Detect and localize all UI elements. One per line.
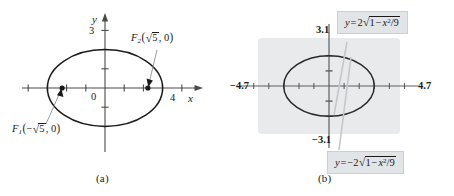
f1-radicand: 5 [38, 123, 45, 135]
eq-lower-radical: √1 − x2/9 [359, 156, 396, 168]
eq-lower-divisor: /9 [387, 157, 395, 168]
window-xmax-label: 4.7 [418, 80, 431, 91]
eq-upper-radicand: 1 − x2/9 [369, 16, 400, 28]
f2-radical: √5 [145, 32, 158, 44]
panel-a: y x 3 0 4 F1(−√5, 0) F2(√5, 0) [0, 0, 227, 196]
equation-callout-lower: y = −2√1 − x2/9 [327, 151, 404, 174]
window-ymax-label: 3.1 [316, 24, 329, 35]
eq-upper-one: 1 [370, 17, 375, 28]
eq-upper-minus: − [376, 17, 382, 28]
eq-upper-divisor: /9 [391, 17, 399, 28]
caption-panel-b: (b) [318, 172, 331, 184]
window-xmin-label: −4.7 [230, 80, 249, 91]
equation-callout-upper: y = 2√1 − x2/9 [337, 11, 408, 34]
f1-radical: √5 [32, 123, 45, 135]
eq-upper-radical: √1 − x2/9 [363, 16, 400, 28]
eq-lower-minus: − [372, 157, 378, 168]
eq-upper-equals: = [351, 17, 357, 28]
f1-rest: , 0 [46, 123, 57, 134]
window-ymin-label: −3.1 [312, 134, 331, 145]
f1-open-paren: ( [22, 121, 26, 135]
y-tick-label-3: 3 [89, 25, 94, 36]
f2-rest: , 0 [159, 32, 170, 43]
caption-panel-a: (a) [96, 172, 109, 184]
f1-close-paren: ) [57, 121, 61, 135]
f1-subscript: 1 [18, 128, 22, 136]
focus-label-f1: F1(−√5, 0) [12, 121, 61, 136]
y-axis-arrow [102, 13, 108, 22]
focus-point-f1 [60, 85, 65, 90]
origin-label: 0 [91, 91, 96, 102]
eq-upper-lhs: y [345, 17, 350, 28]
focus-label-f2: F2(√5, 0) [131, 30, 174, 45]
ellipse-figure: y x 3 0 4 F1(−√5, 0) F2(√5, 0) [0, 0, 454, 196]
f2-close-paren: ) [170, 30, 174, 44]
y-axis-label: y [92, 13, 97, 25]
x-axis-label: x [188, 92, 193, 104]
eq-lower-equals: = [341, 157, 347, 168]
f2-radicand: 5 [152, 32, 159, 44]
eq-lower-radicand: 1 − x2/9 [365, 156, 396, 168]
eq-lower-coefficient: −2 [347, 157, 358, 168]
focus-point-f2 [145, 85, 150, 90]
x-axis-arrow [195, 85, 204, 91]
f2-subscript: 2 [137, 37, 141, 45]
x-tick-label-4: 4 [170, 92, 175, 103]
eq-lower-lhs: y [335, 157, 340, 168]
eq-lower-one: 1 [365, 157, 370, 168]
